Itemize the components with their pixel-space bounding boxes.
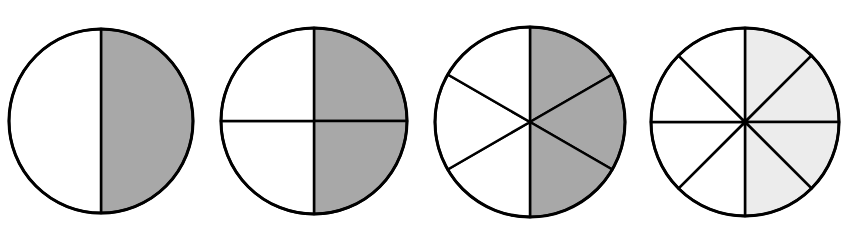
shaded-sector [101,29,193,213]
unshaded-sector [9,29,101,213]
fraction-circle-quarters [221,28,407,214]
fraction-circle-eighths [651,28,839,216]
fraction-circle-halves [9,29,193,213]
fraction-circle-sixths [435,27,625,217]
fraction-circles-diagram [0,0,856,227]
